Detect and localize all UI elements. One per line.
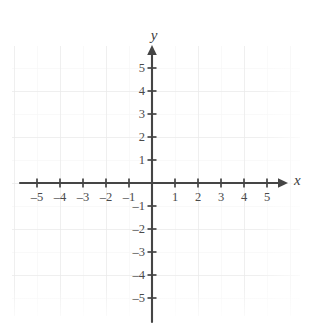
coordinate-plane-canvas: [0, 0, 314, 329]
coordinate-plane-figure: –5 –4 –3 –2 –1 1 2 3 4 5 5 4 3 2 1 –1 –2…: [0, 0, 314, 329]
y-tick-label-neg3: –3: [133, 246, 146, 259]
x-tick-label-neg4: –4: [54, 191, 67, 204]
x-tick-label-neg3: –3: [77, 191, 90, 204]
y-tick-label-neg4: –4: [133, 269, 146, 282]
x-tick-label-neg5: –5: [31, 191, 44, 204]
y-tick-label-1: 1: [139, 154, 145, 167]
y-tick-label-2: 2: [139, 131, 145, 144]
x-tick-label-2: 2: [195, 191, 201, 204]
x-tick-label-5: 5: [264, 191, 270, 204]
y-tick-label-neg1: –1: [133, 200, 146, 213]
x-tick-label-neg2: –2: [100, 191, 113, 204]
x-tick-label-1: 1: [172, 191, 178, 204]
y-tick-label-neg2: –2: [133, 223, 146, 236]
y-tick-label-5: 5: [139, 62, 145, 75]
y-tick-label-neg5: –5: [133, 292, 146, 305]
x-tick-label-4: 4: [241, 191, 247, 204]
y-tick-label-4: 4: [139, 85, 145, 98]
y-tick-label-3: 3: [139, 108, 145, 121]
x-axis-label: x: [294, 173, 301, 188]
x-tick-label-3: 3: [218, 191, 224, 204]
y-axis-label: y: [151, 28, 158, 43]
